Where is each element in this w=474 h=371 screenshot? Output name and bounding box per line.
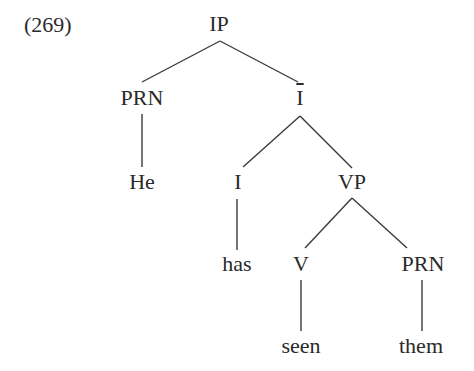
- syntax-tree: IP PRN I He I VP has V PRN seen them: [0, 0, 474, 371]
- node-ip: IP: [209, 11, 229, 37]
- edge-vp-v: [305, 198, 352, 248]
- node-prn-subject: PRN: [121, 85, 164, 111]
- edge-ip-prn: [142, 41, 220, 82]
- leaf-has: has: [222, 251, 251, 277]
- edge-ibar-vp: [300, 116, 352, 168]
- node-v: V: [293, 251, 309, 277]
- node-vp: VP: [338, 169, 366, 195]
- node-i-bar: I: [296, 85, 303, 111]
- leaf-he: He: [129, 169, 155, 195]
- node-i-head: I: [234, 169, 241, 195]
- edge-vp-prn: [352, 198, 407, 248]
- leaf-them: them: [399, 333, 443, 359]
- edge-ip-ibar: [220, 41, 298, 82]
- leaf-seen: seen: [281, 333, 320, 359]
- node-prn-object: PRN: [402, 251, 445, 277]
- edge-ibar-i: [243, 116, 300, 167]
